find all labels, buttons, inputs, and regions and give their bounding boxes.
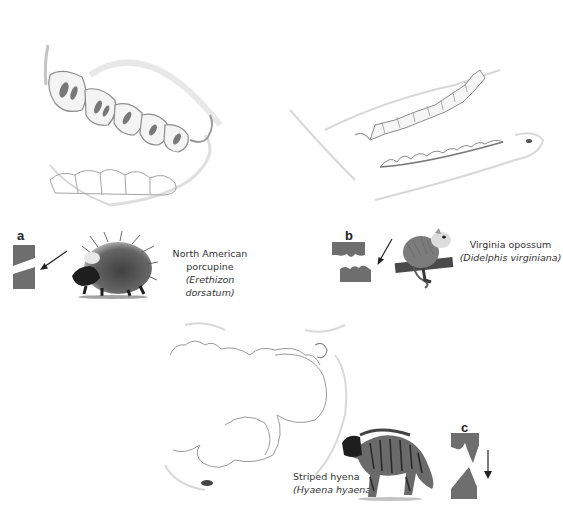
porcupine-caption: North American porcupine (Erethizon dors… [160,247,260,299]
arrow-down-left-icon [38,250,68,272]
porcupine-jaw-sketch [30,15,230,220]
porcupine-scientific-name: (Erethizon dorsatum) [160,273,260,299]
panel-b-letter: b [345,228,353,243]
panel-a-letter: a [17,228,24,243]
porcupine-illustration [68,232,158,300]
porcupine-common-name-line2: porcupine [160,260,260,273]
arrow-down-icon [482,450,494,480]
cusped-interlock-wear-diagram [332,242,376,284]
opossum-illustration [395,228,455,290]
opossum-scientific-name: (Didelphis virginiana) [458,251,563,264]
hyena-illustration [340,425,440,503]
arrow-down-left-icon [376,238,394,266]
opossum-jaw-sketch [285,60,555,210]
crushing-cone-wear-diagram [451,433,479,501]
hyena-jaw-sketch [165,315,360,495]
opossum-caption: Virginia opossum (Didelphis virginiana) [458,238,563,264]
oblique-shear-wear-diagram [13,245,37,290]
porcupine-common-name-line1: North American [160,247,260,260]
opossum-common-name: Virginia opossum [458,238,563,251]
